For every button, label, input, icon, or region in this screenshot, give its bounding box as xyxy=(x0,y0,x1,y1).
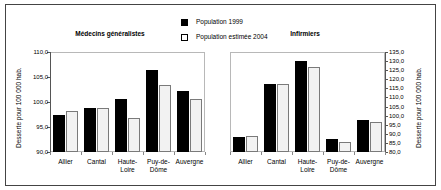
legend-swatch-filled-square-icon xyxy=(181,19,188,26)
x-axis-category-label: Auvergne xyxy=(174,158,205,166)
x-axis-tick xyxy=(385,152,386,155)
y-axis-tick-label: 90,0 xyxy=(389,131,401,137)
y-axis-tick-label: 105,0 xyxy=(33,74,48,80)
x-axis-tick xyxy=(112,152,113,155)
y-axis-tick-label: 85,0 xyxy=(389,140,401,146)
y-axis-tick-label: 110,0 xyxy=(33,49,48,55)
y-axis-tick-label: 90,0 xyxy=(36,149,48,155)
bar xyxy=(264,84,276,152)
y-axis-tick-label: 80,0 xyxy=(389,149,401,155)
x-axis-category-label: Puy-de- Dôme xyxy=(323,158,354,173)
bar xyxy=(190,99,202,152)
bar xyxy=(339,142,351,152)
y-axis-tick xyxy=(385,88,388,89)
y-axis-tick-label: 125,0 xyxy=(389,67,404,73)
bar xyxy=(295,61,307,152)
x-axis-tick xyxy=(50,152,51,155)
y-axis-tick xyxy=(385,97,388,98)
x-axis-tick xyxy=(323,152,324,155)
bar xyxy=(159,85,171,152)
y-axis-tick xyxy=(385,79,388,80)
x-axis-tick xyxy=(81,152,82,155)
y-axis-tick xyxy=(385,143,388,144)
bar xyxy=(246,136,258,152)
y-axis-tick xyxy=(385,134,388,135)
x-axis-category-label: Allier xyxy=(50,158,81,166)
y-axis-tick-label: 100,0 xyxy=(389,113,404,119)
x-axis-category-label: Puy-de- Dôme xyxy=(143,158,174,173)
y-axis-tick-label: 95,0 xyxy=(36,124,48,130)
bar xyxy=(177,91,189,153)
chart-panel-medecins-generalistes: Médecins généralistes Desserte pour 100 … xyxy=(10,30,210,182)
y-axis-tick-label: 110,0 xyxy=(389,94,404,100)
bar xyxy=(128,118,140,152)
y-axis-tick-label: 95,0 xyxy=(389,122,401,128)
x-axis-category-label: Haute- Loire xyxy=(112,158,143,173)
y-axis-tick-label: 115,0 xyxy=(389,85,404,91)
x-axis-category-label: Auvergne xyxy=(354,158,385,166)
x-axis-tick xyxy=(174,152,175,155)
legend-item-population-1999: Population 1999 xyxy=(181,15,311,30)
bar-series-container xyxy=(230,52,385,152)
bar xyxy=(308,67,320,152)
y-axis-tick xyxy=(385,107,388,108)
y-axis-spine xyxy=(50,52,51,152)
chart-panel-infirmiers: Infirmiers Desserte pour 100 000 hab. 80… xyxy=(225,30,430,182)
bar xyxy=(357,120,369,152)
x-axis-tick xyxy=(292,152,293,155)
bar xyxy=(233,137,245,152)
bar xyxy=(66,111,78,153)
plot-area xyxy=(230,52,385,152)
x-axis-category-label: Haute- Loire xyxy=(292,158,323,173)
x-axis-tick xyxy=(205,152,206,155)
legend-label: Population 1999 xyxy=(196,19,243,26)
y-axis-title: Desserte pour 100 000 hab. xyxy=(16,67,23,148)
chart-title: Médecins généralistes xyxy=(10,30,210,37)
x-axis-tick xyxy=(261,152,262,155)
bar xyxy=(115,99,127,152)
y-axis-spine xyxy=(385,52,386,152)
bar xyxy=(277,84,289,152)
bar xyxy=(53,115,65,153)
x-axis-tick xyxy=(230,152,231,155)
bar-series-container xyxy=(50,52,205,152)
bar xyxy=(97,108,109,152)
x-axis-category-label: Cantal xyxy=(261,158,292,166)
y-axis-tick-label: 130,0 xyxy=(389,58,404,64)
y-axis-tick-label: 100,0 xyxy=(33,99,48,105)
y-axis-tick xyxy=(385,52,388,53)
y-axis-tick xyxy=(385,70,388,71)
y-axis-tick xyxy=(385,125,388,126)
y-axis-title: Desserte pour 100 000 hab. xyxy=(416,67,423,148)
y-axis-tick-label: 105,0 xyxy=(389,104,404,110)
x-axis-category-label: Cantal xyxy=(81,158,112,166)
y-axis-tick xyxy=(385,61,388,62)
plot-area xyxy=(50,52,205,152)
figure: Population 1999 Population estimée 2004 … xyxy=(0,0,441,190)
x-axis-tick xyxy=(354,152,355,155)
y-axis-tick-label: 120,0 xyxy=(389,76,404,82)
x-axis-tick xyxy=(143,152,144,155)
y-axis-tick xyxy=(385,116,388,117)
y-axis-tick-label: 135,0 xyxy=(389,49,404,55)
chart-title: Infirmiers xyxy=(205,30,405,37)
x-axis-category-label: Allier xyxy=(230,158,261,166)
bar xyxy=(146,70,158,152)
bar xyxy=(84,108,96,152)
bar xyxy=(326,139,338,152)
bar xyxy=(370,122,382,152)
